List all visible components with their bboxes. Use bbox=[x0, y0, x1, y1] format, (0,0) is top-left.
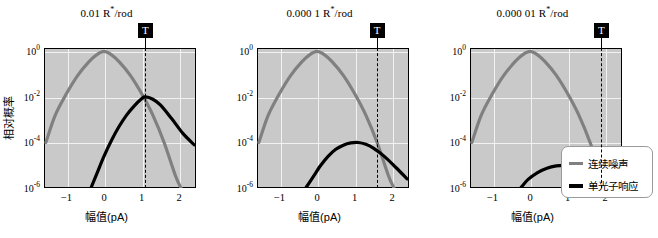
x-tick-label: 2 bbox=[176, 192, 181, 203]
gridline-vertical bbox=[68, 49, 69, 187]
threshold-line-2 bbox=[377, 48, 378, 188]
plot-area-wrap-1 bbox=[44, 48, 196, 188]
x-tick-label: −1 bbox=[274, 192, 285, 203]
threshold-marker-3: T bbox=[594, 23, 609, 38]
threshold-line-1 bbox=[145, 48, 146, 188]
gridline-vertical bbox=[180, 49, 181, 187]
y-tick-label: 100 bbox=[26, 46, 40, 57]
legend-label-noise: 连续噪声 bbox=[588, 156, 628, 171]
x-axis-label-1: 幅值(pA) bbox=[0, 208, 213, 224]
gridline-vertical bbox=[318, 49, 319, 187]
legend: 连续噪声 单光子响应 bbox=[561, 146, 653, 198]
gridline-vertical bbox=[143, 49, 144, 187]
y-tick-label: 10-2 bbox=[237, 91, 253, 102]
y-tick-label: 10-4 bbox=[237, 137, 253, 148]
threshold-stem-3 bbox=[601, 38, 602, 48]
legend-item-photon: 单光子响应 bbox=[569, 178, 638, 193]
legend-item-noise: 连续噪声 bbox=[569, 156, 628, 171]
chart-panel-2: 0.000 1 R*/rod T 10010-210-410-6 −1012 幅… bbox=[213, 0, 426, 238]
gridline-vertical bbox=[494, 49, 495, 187]
y-tick-label: 10-2 bbox=[24, 91, 40, 102]
gridline-vertical bbox=[393, 49, 394, 187]
x-tick-label: 1 bbox=[352, 192, 357, 203]
x-axis-label-3: 幅值(pA) bbox=[426, 208, 639, 224]
y-tick-label: 100 bbox=[452, 46, 466, 57]
gridline-vertical bbox=[281, 49, 282, 187]
plot-area-1 bbox=[44, 48, 196, 188]
legend-swatch-photon bbox=[569, 184, 583, 188]
threshold-stem-1 bbox=[145, 38, 146, 48]
y-axis-label-1: 相对概率 bbox=[0, 88, 16, 148]
x-tick-label: 0 bbox=[314, 192, 319, 203]
x-tick-label: −1 bbox=[487, 192, 498, 203]
legend-label-photon: 单光子响应 bbox=[588, 178, 638, 193]
threshold-stem-2 bbox=[377, 38, 378, 48]
y-tick-label: 10-4 bbox=[450, 137, 466, 148]
x-tick-label: 0 bbox=[527, 192, 532, 203]
x-tick-label: 1 bbox=[139, 192, 144, 203]
x-axis-ticks-2: −1012 bbox=[213, 192, 426, 208]
threshold-line-3 bbox=[601, 48, 602, 188]
threshold-marker-1: T bbox=[138, 23, 153, 38]
legend-swatch-noise bbox=[569, 162, 583, 165]
figure-root: 0.01 R*/rod T 10010-210-410-6 相对概率 −1012… bbox=[0, 0, 658, 238]
gridline-vertical bbox=[356, 49, 357, 187]
x-axis-label-2: 幅值(pA) bbox=[213, 208, 426, 224]
x-tick-label: 2 bbox=[389, 192, 394, 203]
x-tick-label: −1 bbox=[61, 192, 72, 203]
x-tick-label: 0 bbox=[101, 192, 106, 203]
chart-panel-1: 0.01 R*/rod T 10010-210-410-6 相对概率 −1012… bbox=[0, 0, 213, 238]
plot-area-2 bbox=[257, 48, 409, 188]
threshold-marker-2: T bbox=[370, 23, 385, 38]
gridline-vertical bbox=[531, 49, 532, 187]
y-tick-label: 10-4 bbox=[24, 137, 40, 148]
gridline-vertical bbox=[105, 49, 106, 187]
plot-area-wrap-2 bbox=[257, 48, 409, 188]
y-tick-label: 100 bbox=[239, 46, 253, 57]
x-axis-ticks-1: −1012 bbox=[0, 192, 213, 208]
y-tick-label: 10-2 bbox=[450, 91, 466, 102]
chart-panel-3: 0.000 01 R*/rod T 10010-210-410-6 −1012 … bbox=[426, 0, 639, 238]
